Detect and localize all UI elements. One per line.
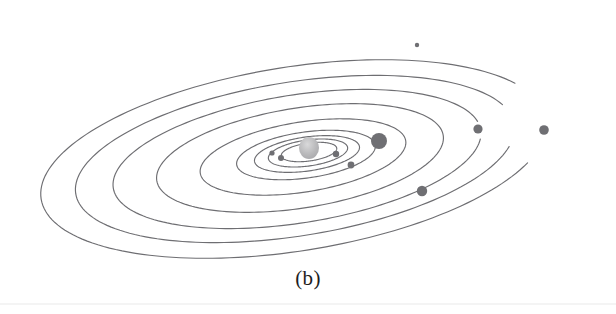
planet-gas-giant-large xyxy=(371,133,387,149)
planet-planet-outermost-top xyxy=(415,43,419,47)
figure-container: (b) xyxy=(0,0,616,314)
planet-inner-planet-right xyxy=(333,151,339,157)
sun-body xyxy=(299,137,319,159)
orbit-path-orbit-8 xyxy=(75,75,509,242)
planet-planet-outer-mid xyxy=(473,124,482,133)
scan-edge-line xyxy=(0,303,616,305)
planet-planet-lower-right xyxy=(417,186,427,196)
orbits-group xyxy=(41,60,528,259)
planet-inner-planet-mid xyxy=(269,150,274,155)
figure-caption: (b) xyxy=(0,266,616,291)
planet-planet-outer-far xyxy=(539,125,549,135)
orbit-path-orbit-6 xyxy=(157,104,444,213)
sun xyxy=(299,137,319,159)
planets-group xyxy=(269,43,548,196)
orbit-path-orbit-7 xyxy=(113,89,480,228)
planet-inner-planet-lower xyxy=(348,162,355,169)
planet-inner-planet-left xyxy=(278,155,284,161)
orbit-path-orbit-5 xyxy=(200,119,406,195)
